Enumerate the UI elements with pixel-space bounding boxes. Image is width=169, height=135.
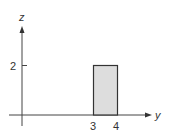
chart-figure: z y 2 3 4: [0, 0, 169, 135]
y-axis-label: y: [154, 109, 162, 121]
z-axis-arrow-icon: [20, 26, 25, 33]
y-tick-label-3: 3: [90, 120, 96, 132]
z-tick-label-2: 2: [10, 60, 16, 72]
bar-rect: [94, 66, 118, 116]
y-tick-label-4: 4: [113, 120, 119, 132]
z-axis-label: z: [18, 11, 25, 23]
y-axis-arrow-icon: [145, 113, 152, 118]
